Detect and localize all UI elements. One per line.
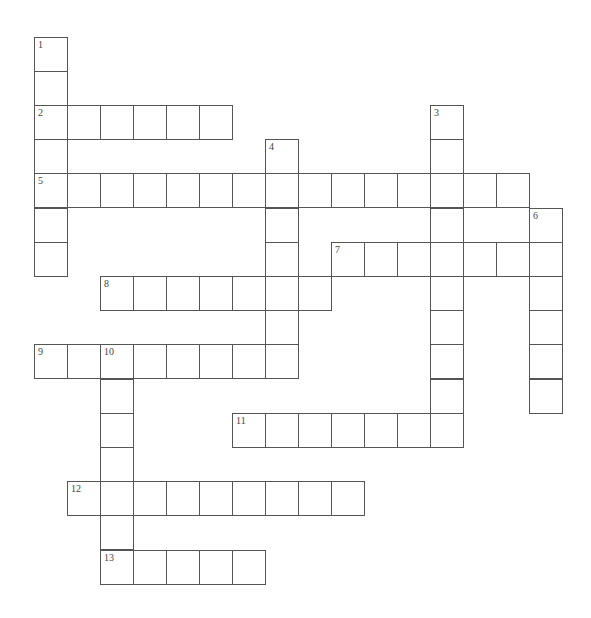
crossword-cell[interactable] xyxy=(166,344,200,379)
crossword-cell[interactable] xyxy=(67,105,101,140)
crossword-cell[interactable] xyxy=(265,242,299,277)
crossword-cell[interactable] xyxy=(430,344,464,379)
crossword-cell[interactable]: 12 xyxy=(67,481,101,516)
clue-number: 13 xyxy=(104,553,114,563)
crossword-cell[interactable] xyxy=(166,550,200,585)
crossword-cell[interactable]: 13 xyxy=(100,550,134,585)
crossword-cell[interactable] xyxy=(397,173,431,208)
clue-number: 12 xyxy=(71,484,81,494)
crossword-cell[interactable] xyxy=(34,242,68,277)
crossword-cell[interactable]: 4 xyxy=(265,139,299,174)
crossword-cell[interactable] xyxy=(265,173,299,208)
crossword-cell[interactable] xyxy=(331,481,365,516)
crossword-cell[interactable] xyxy=(100,481,134,516)
crossword-cell[interactable] xyxy=(397,413,431,448)
crossword-cell[interactable] xyxy=(34,139,68,174)
crossword-cell[interactable] xyxy=(265,481,299,516)
crossword-cell[interactable] xyxy=(430,242,464,277)
crossword-cell[interactable] xyxy=(166,105,200,140)
crossword-cell[interactable] xyxy=(430,413,464,448)
clue-number: 7 xyxy=(335,245,340,255)
crossword-cell[interactable] xyxy=(166,481,200,516)
crossword-cell[interactable] xyxy=(265,208,299,243)
crossword-cell[interactable] xyxy=(199,276,233,311)
crossword-cell[interactable] xyxy=(133,550,167,585)
crossword-cell[interactable] xyxy=(529,276,563,311)
crossword-cell[interactable] xyxy=(232,173,266,208)
crossword-cell[interactable] xyxy=(397,242,431,277)
crossword-cell[interactable] xyxy=(199,173,233,208)
crossword-cell[interactable] xyxy=(496,173,530,208)
crossword-cell[interactable]: 7 xyxy=(331,242,365,277)
crossword-cell[interactable] xyxy=(529,242,563,277)
clue-number: 6 xyxy=(533,211,538,221)
crossword-grid: 12534678910131112 xyxy=(0,0,591,618)
crossword-cell[interactable]: 9 xyxy=(34,344,68,379)
crossword-cell[interactable] xyxy=(496,242,530,277)
crossword-cell[interactable] xyxy=(133,105,167,140)
crossword-cell[interactable] xyxy=(298,413,332,448)
crossword-cell[interactable]: 11 xyxy=(232,413,266,448)
crossword-cell[interactable] xyxy=(298,481,332,516)
clue-number: 4 xyxy=(269,142,274,152)
crossword-cell[interactable] xyxy=(34,71,68,106)
clue-number: 2 xyxy=(38,108,43,118)
crossword-cell[interactable] xyxy=(133,481,167,516)
crossword-cell[interactable] xyxy=(298,276,332,311)
crossword-cell[interactable] xyxy=(430,173,464,208)
crossword-cell[interactable] xyxy=(133,344,167,379)
clue-number: 5 xyxy=(38,176,43,186)
crossword-cell[interactable]: 6 xyxy=(529,208,563,243)
crossword-cell[interactable] xyxy=(463,242,497,277)
crossword-cell[interactable] xyxy=(265,344,299,379)
crossword-cell[interactable] xyxy=(133,276,167,311)
crossword-cell[interactable] xyxy=(331,173,365,208)
crossword-cell[interactable] xyxy=(232,550,266,585)
crossword-cell[interactable] xyxy=(100,515,134,550)
crossword-cell[interactable] xyxy=(199,344,233,379)
crossword-cell[interactable] xyxy=(100,379,134,414)
crossword-cell[interactable]: 1 xyxy=(34,37,68,72)
crossword-cell[interactable] xyxy=(430,379,464,414)
crossword-cell[interactable] xyxy=(364,173,398,208)
crossword-cell[interactable] xyxy=(430,276,464,311)
crossword-cell[interactable] xyxy=(232,344,266,379)
crossword-cell[interactable] xyxy=(100,447,134,482)
crossword-cell[interactable] xyxy=(166,173,200,208)
crossword-cell[interactable] xyxy=(364,413,398,448)
clue-number: 10 xyxy=(104,347,114,357)
crossword-cell[interactable] xyxy=(100,413,134,448)
crossword-cell[interactable] xyxy=(100,105,134,140)
clue-number: 11 xyxy=(236,416,246,426)
crossword-cell[interactable] xyxy=(364,242,398,277)
crossword-cell[interactable] xyxy=(529,344,563,379)
crossword-cell[interactable] xyxy=(463,173,497,208)
crossword-cell[interactable] xyxy=(331,413,365,448)
crossword-cell[interactable]: 5 xyxy=(34,173,68,208)
crossword-cell[interactable] xyxy=(67,344,101,379)
crossword-cell[interactable] xyxy=(430,139,464,174)
crossword-cell[interactable] xyxy=(430,310,464,345)
crossword-cell[interactable] xyxy=(232,276,266,311)
crossword-cell[interactable]: 8 xyxy=(100,276,134,311)
crossword-cell[interactable] xyxy=(265,413,299,448)
crossword-cell[interactable] xyxy=(232,481,266,516)
crossword-cell[interactable] xyxy=(199,481,233,516)
crossword-cell[interactable]: 10 xyxy=(100,344,134,379)
crossword-cell[interactable]: 3 xyxy=(430,105,464,140)
crossword-cell[interactable] xyxy=(100,173,134,208)
crossword-cell[interactable] xyxy=(430,208,464,243)
crossword-cell[interactable] xyxy=(199,550,233,585)
crossword-cell[interactable] xyxy=(133,173,167,208)
crossword-cell[interactable] xyxy=(298,173,332,208)
crossword-cell[interactable] xyxy=(529,310,563,345)
crossword-cell[interactable] xyxy=(529,379,563,414)
crossword-cell[interactable] xyxy=(265,310,299,345)
crossword-cell[interactable] xyxy=(199,105,233,140)
clue-number: 3 xyxy=(434,108,439,118)
crossword-cell[interactable] xyxy=(265,276,299,311)
crossword-cell[interactable]: 2 xyxy=(34,105,68,140)
crossword-cell[interactable] xyxy=(34,208,68,243)
crossword-cell[interactable] xyxy=(166,276,200,311)
crossword-cell[interactable] xyxy=(67,173,101,208)
